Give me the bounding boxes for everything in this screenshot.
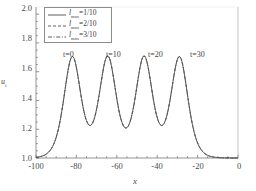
curve-dashed [36, 56, 238, 158]
peak-annotation-t30: t=30 [190, 50, 205, 59]
curve-solid [36, 56, 238, 158]
y-tick-label: 2.0 [10, 3, 32, 13]
peak-annotation-t10: t=10 [106, 50, 121, 59]
peak-annotation-t20: t=20 [148, 50, 163, 59]
y-tick-label: 1.2 [10, 123, 32, 133]
y-axis-label: ut [1, 77, 6, 88]
x-tick-label: -100 [21, 161, 51, 171]
x-tick-label: -60 [102, 161, 132, 171]
legend-line-dashed-icon [47, 22, 67, 30]
x-tick-label: -80 [61, 161, 91, 171]
peak-annotation-t0: t=0 [63, 50, 74, 59]
chart-figure: 2.0 1.8 1.6 1.4 1.2 1.0 -100 -80 -60 -40… [0, 0, 256, 191]
x-axis-label: x [133, 176, 137, 186]
data-curves [36, 56, 238, 158]
legend-entry-dashdot: lmax=3/10 [47, 31, 111, 42]
legend-line-dashdot-icon [47, 33, 67, 41]
legend-line-solid-icon [47, 11, 67, 19]
curve-dashdot [36, 56, 238, 158]
y-tick-label: 1.6 [10, 63, 32, 73]
y-tick-label: 1.8 [10, 33, 32, 43]
x-tick-label: 0 [224, 161, 254, 171]
y-tick-label: 1.4 [10, 93, 32, 103]
x-tick-label: -40 [142, 161, 172, 171]
legend-label-dashdot: lmax=3/10 [69, 31, 97, 43]
legend: lmax=1/10 lmax=2/10 lmax=3/10 [44, 7, 112, 43]
x-tick-label: -20 [183, 161, 213, 171]
